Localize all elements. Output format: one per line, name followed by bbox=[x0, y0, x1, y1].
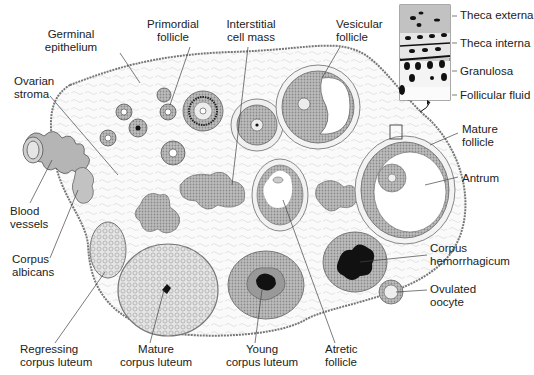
label-atretic-follicle: Atretic follicle bbox=[325, 343, 358, 369]
label-interstitial-cell-mass: Interstitial cell mass bbox=[218, 18, 284, 44]
young-corpus-luteum-shape bbox=[228, 251, 304, 319]
growing-follicle bbox=[183, 91, 223, 131]
vesicular-follicle-shape bbox=[276, 65, 360, 149]
corpus-hemorrhagicum-shape bbox=[323, 232, 387, 292]
label-primordial-follicle: Primordial follicle bbox=[140, 18, 206, 44]
label-corpus-albicans: Corpus albicans bbox=[12, 253, 54, 279]
label-young-corpus-luteum: Young corpus luteum bbox=[220, 343, 304, 369]
ovary-diagram bbox=[0, 0, 534, 375]
label-mature-follicle: Mature follicle bbox=[462, 123, 498, 149]
label-ovarian-stroma: Ovarian stroma bbox=[14, 75, 54, 101]
corpus-albicans-shape bbox=[72, 167, 93, 203]
label-granulosa: Granulosa bbox=[460, 65, 513, 78]
atretic-follicle-shape bbox=[252, 159, 308, 231]
label-theca-externa: Theca externa bbox=[460, 9, 534, 22]
label-germinal-epithelium: Germinal epithelium bbox=[36, 28, 106, 54]
label-corpus-hemorrhagicum: Corpus hemorrhagicum bbox=[430, 242, 510, 268]
regressing-corpus-luteum-shape bbox=[90, 222, 126, 278]
mature-corpus-luteum-shape bbox=[118, 244, 218, 336]
follicle-wall-inset bbox=[399, 5, 450, 112]
label-antrum: Antrum bbox=[462, 172, 499, 185]
label-theca-interna: Theca interna bbox=[460, 37, 530, 50]
label-ovulated-oocyte: Ovulated oocyte bbox=[430, 283, 476, 309]
label-mature-corpus-luteum: Mature corpus luteum bbox=[114, 343, 198, 369]
label-regressing-corpus-luteum: Regressing corpus luteum bbox=[20, 343, 92, 369]
label-vesicular-follicle: Vesicular follicle bbox=[336, 18, 383, 44]
label-follicular-fluid: Follicular fluid bbox=[460, 89, 530, 102]
label-blood-vessels: Blood vessels bbox=[10, 205, 48, 231]
